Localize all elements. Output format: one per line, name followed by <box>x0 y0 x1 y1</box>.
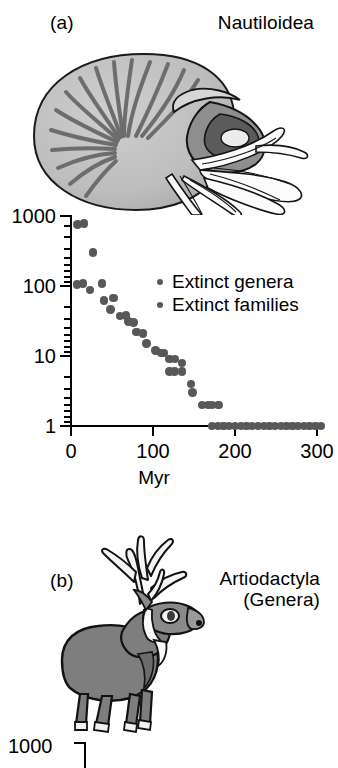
data-point <box>109 294 117 302</box>
data-point <box>317 422 325 430</box>
data-point <box>188 388 196 396</box>
data-points-layer <box>0 0 328 500</box>
legend-label: Extinct genera <box>172 270 293 293</box>
data-point <box>98 279 106 287</box>
data-point <box>187 380 195 388</box>
legend-marker-icon <box>157 279 163 285</box>
bottom-chart-y-axis <box>84 742 86 768</box>
deer-illustration <box>48 528 208 738</box>
data-point <box>129 318 137 326</box>
data-point <box>106 305 114 313</box>
data-point <box>139 329 147 337</box>
data-point <box>178 367 186 375</box>
data-point <box>142 339 150 347</box>
legend-marker-icon <box>157 302 163 308</box>
data-point <box>214 401 222 409</box>
data-point <box>178 359 186 367</box>
extinction-scatter-chart: 1000 100 10 1 0 100 200 300 Myr Extinct … <box>0 0 328 500</box>
bottom-chart-y-label-1000: 1000 <box>8 736 53 756</box>
data-point <box>86 286 94 294</box>
data-point <box>89 248 97 256</box>
data-point <box>100 296 108 304</box>
data-point <box>80 219 88 227</box>
panel-b-taxon-title: Artiodactyla (Genera) <box>220 568 320 611</box>
legend-label: Extinct families <box>172 293 299 316</box>
